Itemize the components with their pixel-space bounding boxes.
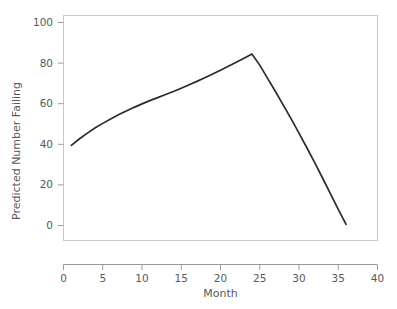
- y-tick-label-0: 0: [46, 219, 53, 231]
- x-tick-label-35: 35: [332, 272, 345, 284]
- x-tick-label-10: 10: [135, 272, 148, 284]
- y-axis-ticks: [58, 23, 64, 226]
- data-series-group: [71, 54, 346, 224]
- x-tick-label-40: 40: [371, 272, 384, 284]
- x-tick-label-5: 5: [99, 272, 106, 284]
- y-axis-title: Predicted Number Failing: [10, 82, 23, 220]
- x-axis-tick-labels: 0 5 10 15 20 25 30 35 40: [60, 272, 384, 284]
- y-tick-label-20: 20: [40, 178, 53, 190]
- x-axis-title: Month: [203, 287, 238, 300]
- x-tick-label-0: 0: [60, 272, 67, 284]
- y-tick-label-40: 40: [40, 138, 53, 150]
- x-tick-label-30: 30: [292, 272, 305, 284]
- y-axis-tick-labels: 100 80 60 40 20 0: [33, 16, 53, 231]
- y-tick-label-80: 80: [40, 57, 53, 69]
- y-tick-label-60: 60: [40, 97, 53, 109]
- x-tick-label-20: 20: [214, 272, 227, 284]
- line-chart: 100 80 60 40 20 0 0 5 10 15: [0, 0, 397, 309]
- x-tick-label-25: 25: [253, 272, 266, 284]
- chart-figure: 100 80 60 40 20 0 0 5 10 15: [0, 0, 397, 309]
- plot-frame: [64, 16, 378, 241]
- y-tick-label-100: 100: [33, 16, 53, 28]
- x-axis-ticks: [64, 265, 378, 271]
- x-tick-label-15: 15: [175, 272, 188, 284]
- series-line-predicted-number-failing: [71, 54, 346, 224]
